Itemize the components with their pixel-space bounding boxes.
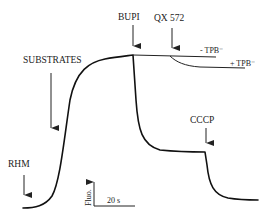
main-trace [23,55,258,208]
label-rhm: RHM [8,159,30,169]
label-substrates: SUBSTRATES [23,55,82,65]
fluorescence-chart: RHM SUBSTRATES BUPI QX 572 CCCP - TPB⁻ +… [0,0,273,218]
scale-time-label: 20 s [107,196,120,205]
scale-fluo-label: Fluo. [84,189,93,206]
label-bupi: BUPI [118,12,140,22]
minus-tpb-trace [133,55,216,57]
label-plus-tpb: + TPB⁻ [230,59,255,68]
label-cccp: CCCP [190,115,214,125]
label-minus-tpb: - TPB⁻ [200,46,223,55]
label-qx572: QX 572 [154,13,185,23]
